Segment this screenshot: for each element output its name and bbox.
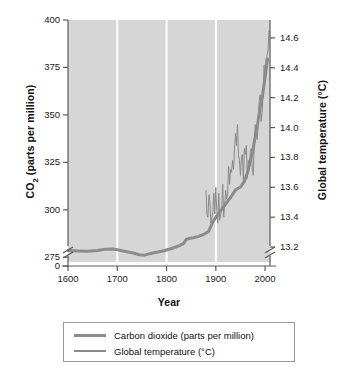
x-tick-label-2000: 2000	[242, 273, 288, 284]
x-tick-label-1600: 1600	[45, 273, 91, 284]
legend-item-temperature[interactable]: Global temperature (°C)	[74, 343, 215, 359]
chart-figure: 2753003253503754000 13.213.413.613.814.0…	[0, 0, 344, 376]
plot-background	[68, 20, 270, 262]
left-axis-title: CO2 (parts per million)	[24, 42, 39, 242]
bottom-axis-ticks	[68, 266, 265, 271]
legend-label-temperature: Global temperature (°C)	[114, 346, 215, 357]
chart-legend: Carbon dioxide (parts per million) Globa…	[63, 322, 295, 362]
right-tick-label-13-2: 13.2	[280, 241, 326, 252]
left-axis-ticks	[63, 20, 68, 266]
left-axis-title-subscript: 2	[31, 178, 40, 182]
left-axis-title-main: CO	[24, 183, 36, 199]
x-axis-title: Year	[68, 296, 270, 308]
x-tick-label-1900: 1900	[193, 273, 239, 284]
x-tick-label-1700: 1700	[94, 273, 140, 284]
right-axis-title: Global temperature (°C)	[316, 40, 328, 240]
legend-swatch-co2-icon	[74, 334, 106, 337]
left-axis-title-rest: (parts per million)	[24, 85, 36, 179]
left-tick-label-0: 0	[18, 260, 60, 271]
legend-swatch-temperature-icon	[74, 350, 106, 352]
left-tick-label-400: 400	[18, 14, 60, 25]
legend-item-co2[interactable]: Carbon dioxide (parts per million)	[74, 327, 254, 343]
x-tick-label-1800: 1800	[144, 273, 190, 284]
right-axis-ticks	[270, 38, 275, 247]
legend-label-co2: Carbon dioxide (parts per million)	[114, 330, 254, 341]
